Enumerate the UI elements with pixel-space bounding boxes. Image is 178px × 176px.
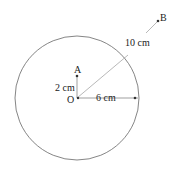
ob-line-outer [146, 22, 157, 33]
circle-diagram: O A B 2 cm 6 cm 10 cm [0, 0, 178, 176]
label-b: B [160, 12, 167, 23]
label-a: A [74, 64, 82, 75]
label-ob-length: 10 cm [125, 37, 150, 48]
point-o [77, 97, 79, 99]
radius-end-point [134, 97, 137, 100]
label-o: O [67, 94, 74, 105]
point-b [157, 20, 160, 23]
label-radius-length: 6 cm [96, 92, 116, 103]
label-oa-length: 2 cm [55, 82, 75, 93]
point-a [76, 75, 79, 78]
